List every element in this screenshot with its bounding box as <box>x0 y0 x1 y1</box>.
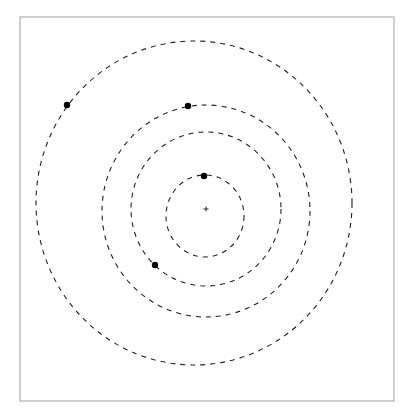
orbiting-bodies <box>64 102 207 268</box>
body-ring-2 <box>152 262 158 268</box>
ring-4-outermost <box>36 41 352 365</box>
body-ring-4 <box>64 102 70 108</box>
body-ring-3 <box>185 103 191 109</box>
body-ring-1 <box>201 173 207 179</box>
orbit-rings <box>36 41 352 365</box>
ring-1-innermost <box>166 175 244 257</box>
center-marker-icon <box>204 207 209 212</box>
orbit-diagram <box>0 0 411 419</box>
